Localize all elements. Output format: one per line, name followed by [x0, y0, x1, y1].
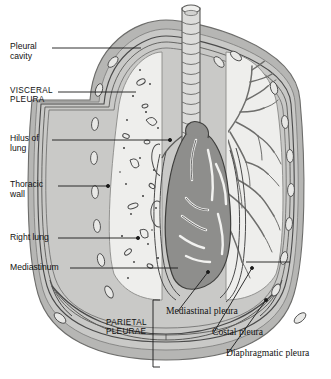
label-visceral-pleura: VISCERAL PLEURA	[10, 86, 53, 104]
anatomy-illustration	[0, 0, 331, 379]
label-diaphragmatic-pleura: Diaphragmatic pleura	[226, 348, 309, 359]
label-costal-pleura: Costal pleura	[212, 327, 263, 338]
label-mediastinum: Mediastinum	[10, 263, 59, 273]
thorax-pleura-diagram: Pleural cavity VISCERAL PLEURA Hilus of …	[0, 0, 331, 379]
label-right-lung: Right lung	[10, 233, 49, 243]
label-hilus-of-lung: Hilus of lung	[10, 134, 39, 153]
label-parietal-pleurae: PARIETAL PLEURAE	[106, 318, 147, 336]
label-mediastinal-pleura: Mediastinal pleura	[166, 306, 238, 317]
label-pleural-cavity: Pleural cavity	[10, 42, 37, 61]
label-thoracic-wall: Thoracic wall	[10, 180, 43, 199]
